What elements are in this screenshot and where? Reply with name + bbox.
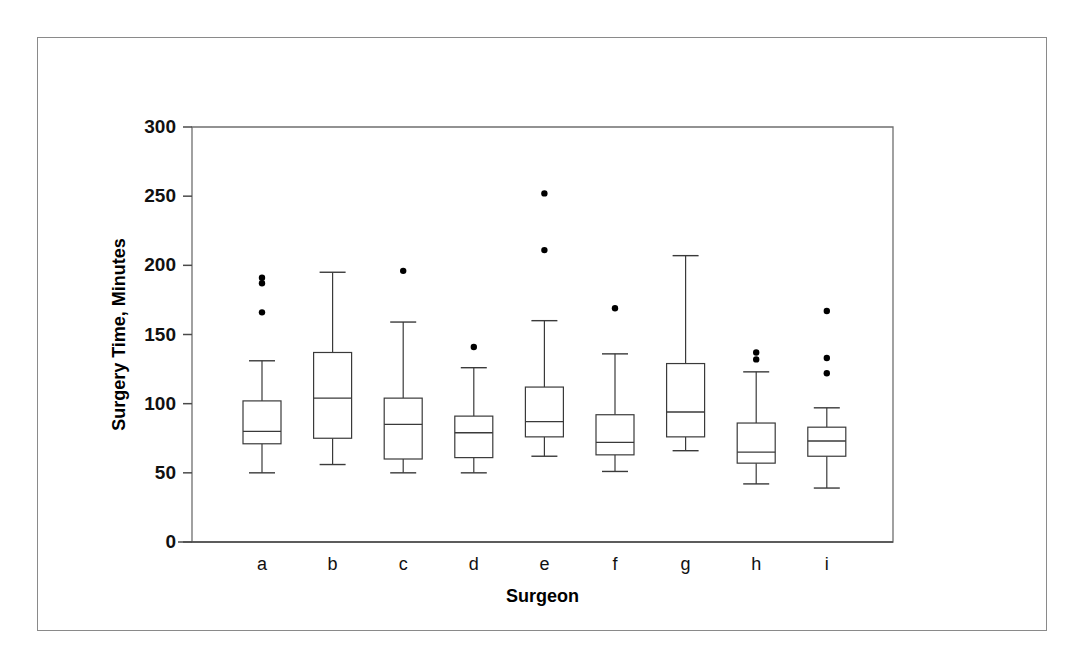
- x-tick-label-f: f: [612, 554, 618, 574]
- box-iqr: [455, 416, 493, 458]
- outlier-point: [612, 305, 618, 311]
- box-iqr: [384, 398, 422, 459]
- x-axis: abcdefghi: [257, 554, 829, 574]
- box-iqr: [525, 387, 563, 437]
- box-plot-series: [243, 190, 846, 488]
- outlier-point: [471, 344, 477, 350]
- box-iqr: [667, 364, 705, 437]
- x-tick-label-c: c: [399, 554, 408, 574]
- outlier-point: [824, 370, 830, 376]
- outlier-point: [541, 190, 547, 196]
- x-tick-label-e: e: [539, 554, 549, 574]
- outlier-point: [259, 280, 265, 286]
- figure-root: 050100150200250300 abcdefghi SurgeonSurg…: [0, 0, 1076, 668]
- y-tick-label: 250: [144, 185, 176, 206]
- box-iqr: [243, 401, 281, 444]
- y-tick-label: 300: [144, 116, 176, 137]
- y-axis: 050100150200250300: [144, 116, 192, 552]
- outlier-point: [541, 247, 547, 253]
- y-tick-label: 150: [144, 324, 176, 345]
- box-plot-a: [243, 275, 281, 473]
- box-iqr: [737, 423, 775, 463]
- box-iqr: [314, 352, 352, 438]
- plot-area-border: [178, 127, 893, 542]
- outlier-point: [824, 355, 830, 361]
- x-axis-title: Surgeon: [506, 586, 579, 606]
- plot-area-rect: [192, 127, 893, 542]
- x-tick-label-g: g: [681, 554, 691, 574]
- box-iqr: [596, 415, 634, 455]
- x-tick-label-b: b: [328, 554, 338, 574]
- box-plot-g: [667, 256, 705, 451]
- box-plot-chart: 050100150200250300 abcdefghi SurgeonSurg…: [0, 0, 1076, 668]
- outlier-point: [753, 349, 759, 355]
- box-plot-h: [737, 349, 775, 484]
- y-tick-label: 0: [165, 531, 176, 552]
- box-plot-b: [314, 272, 352, 464]
- outlier-point: [259, 309, 265, 315]
- box-plot-c: [384, 268, 422, 473]
- x-tick-label-h: h: [751, 554, 761, 574]
- box-plot-f: [596, 305, 634, 471]
- box-plot-i: [808, 308, 846, 488]
- outlier-point: [753, 356, 759, 362]
- outlier-point: [824, 308, 830, 314]
- x-tick-label-a: a: [257, 554, 268, 574]
- outlier-point: [259, 275, 265, 281]
- y-tick-label: 200: [144, 254, 176, 275]
- y-axis-title: Surgery Time, Minutes: [109, 238, 129, 431]
- box-plot-d: [455, 344, 493, 473]
- x-tick-label-d: d: [469, 554, 479, 574]
- y-tick-label: 100: [144, 393, 176, 414]
- y-tick-label: 50: [155, 462, 176, 483]
- outlier-point: [400, 268, 406, 274]
- box-plot-e: [525, 190, 563, 456]
- x-tick-label-i: i: [825, 554, 829, 574]
